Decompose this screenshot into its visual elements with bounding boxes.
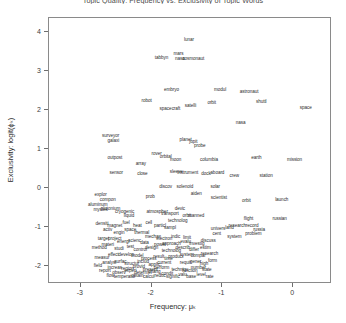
word-point: aboard — [210, 171, 224, 176]
word-point: modul — [214, 88, 226, 93]
x-tick-mark — [221, 283, 222, 287]
y-tick-label: 0 — [37, 184, 41, 191]
word-point: level — [197, 273, 206, 278]
word-point: research — [201, 252, 218, 257]
word-point: scientist — [211, 195, 227, 200]
word-point: state — [202, 268, 212, 273]
word-point: obtain — [131, 273, 143, 278]
x-axis: -3-2-10 — [48, 283, 331, 293]
chart-canvas: Topic Quality: Frequency vs. Exclusivity… — [0, 0, 346, 323]
x-tick-mark — [151, 283, 152, 287]
y-tick-label: -2 — [35, 262, 41, 269]
word-point: orbit — [207, 101, 216, 106]
word-point: robot — [142, 99, 152, 104]
word-point: technolog — [168, 219, 187, 224]
word-point: signific — [166, 275, 180, 280]
y-tick-label: 4 — [37, 27, 41, 34]
word-point: discuss — [201, 239, 216, 244]
word-point: heat — [133, 223, 142, 228]
y-tick-label: 2 — [37, 105, 41, 112]
word-point: probe — [194, 144, 206, 149]
word-point: electron — [156, 237, 172, 242]
word-point: space — [300, 105, 312, 110]
word-point: tabbyn — [155, 56, 169, 61]
word-point: base — [186, 274, 196, 279]
word-point: embryo — [164, 87, 179, 92]
word-point: nasa — [236, 121, 246, 126]
x-tick-label: -2 — [147, 289, 153, 296]
word-point: outpost — [107, 156, 122, 161]
word-point: station — [260, 174, 273, 179]
word-point: thermal — [134, 230, 149, 235]
word-point: magnet — [107, 223, 122, 228]
word-point: spacecraft — [160, 106, 181, 111]
word-point: earth — [251, 156, 261, 161]
word-point: cosmonaut — [182, 57, 204, 62]
word-point: close — [137, 172, 147, 177]
word-point: reduc — [154, 273, 165, 278]
word-point: solar — [210, 184, 220, 189]
word-point: high — [200, 262, 209, 267]
word-point: transport — [161, 212, 179, 217]
word-point: shuttl — [256, 100, 267, 105]
y-tick-label: -1 — [35, 223, 41, 230]
y-tick-label: 1 — [37, 145, 41, 152]
word-point: prob — [146, 194, 155, 199]
word-point: differ — [189, 248, 199, 253]
x-tick-label: 0 — [290, 289, 294, 296]
x-axis-title: Frequency: μₖ — [0, 302, 346, 311]
word-point: limit — [183, 236, 191, 241]
word-point: aiden — [191, 191, 202, 196]
word-point: instrument — [177, 171, 198, 176]
word-point: launch — [275, 198, 288, 203]
word-point: manned — [188, 214, 204, 219]
word-point: activ — [103, 228, 112, 233]
word-point: solenoid — [176, 184, 193, 189]
word-point: liquid — [124, 214, 134, 219]
word-point: calcul — [143, 275, 154, 280]
word-point: fuel — [123, 221, 130, 226]
word-point: land — [225, 226, 234, 231]
word-point: indic — [171, 234, 180, 239]
word-point: describ — [175, 246, 189, 251]
plot-area: lunartabbynmarsnasacosmonautembryomodula… — [48, 17, 331, 283]
word-point: discov — [159, 185, 172, 190]
word-point: cell — [145, 221, 152, 226]
y-tick-label: 3 — [37, 66, 41, 73]
word-point: lunar — [184, 38, 194, 43]
word-point: moon — [170, 158, 181, 163]
word-point: cent — [212, 231, 220, 236]
word-point: sensor — [109, 171, 123, 176]
word-point: system — [227, 235, 241, 240]
x-tick-mark — [292, 283, 293, 287]
word-point: sampl — [164, 226, 176, 231]
word-point: crew — [230, 174, 240, 179]
word-point: scienc — [128, 238, 141, 243]
word-point: galaxi — [108, 139, 120, 144]
word-point: result — [153, 255, 164, 260]
word-point: russian — [272, 217, 286, 222]
word-point: method — [92, 245, 107, 250]
word-point: engin — [114, 230, 125, 235]
word-point: mission — [287, 158, 302, 163]
chart-title: Topic Quality: Frequency vs. Exclusivity… — [0, 0, 346, 4]
x-tick-label: -1 — [218, 289, 224, 296]
word-point: satelli — [185, 104, 196, 109]
word-point: approach — [162, 242, 181, 247]
word-point: form — [208, 259, 217, 264]
x-tick-label: -3 — [77, 289, 83, 296]
x-tick-mark — [80, 283, 81, 287]
word-point: astronaut — [240, 90, 259, 95]
word-point: orbit — [242, 199, 251, 204]
word-point: flight — [244, 216, 253, 221]
word-point: rate — [206, 275, 214, 280]
word-point: array — [136, 161, 146, 166]
word-point: columbia — [200, 157, 218, 162]
word-point: problem — [245, 232, 261, 237]
y-axis-title: Exclusivity: logit(ϕₖ) — [6, 70, 15, 230]
